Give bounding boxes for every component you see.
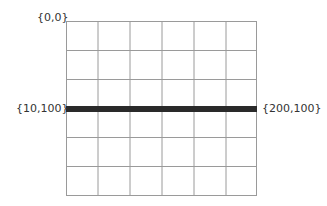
- line-end-label: {200,100}: [262, 103, 322, 115]
- origin-label: {0,0}: [37, 12, 69, 24]
- line-start-label: {10,100}: [16, 103, 69, 115]
- horizontal-line-segment: [66, 106, 257, 112]
